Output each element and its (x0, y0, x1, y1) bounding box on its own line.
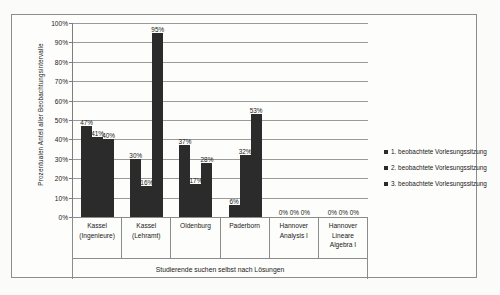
legend-item[interactable]: 2. beobachtete Vorlesungssitzung (384, 164, 484, 172)
bar-value-label: 53% (250, 107, 263, 114)
category-label-line: Hannover (270, 221, 318, 231)
bar[interactable]: 30% (130, 159, 141, 217)
category-label: HannoverAnalysis I (270, 218, 319, 258)
x-axis-title-row: Studierende suchen selbst nach Lösungen (72, 259, 368, 279)
bar[interactable]: 47% (81, 126, 92, 217)
bar-slot: 0% (278, 23, 289, 217)
y-axis-tick-label: 80% (55, 58, 68, 65)
bar-slot: 0% (289, 23, 300, 217)
bar-value-label: 0% (301, 209, 310, 216)
bar[interactable]: 40% (103, 139, 114, 217)
bar[interactable]: 6% (229, 205, 240, 217)
bar-slot: 53% (251, 23, 262, 217)
category-label-line: (Lehramt) (122, 231, 170, 241)
bar-value-label: 28% (201, 156, 214, 163)
plot-area: 47%41%40%30%16%95%37%17%28%6%32%53%0%0%0… (72, 23, 368, 217)
category-label-line: Hannover (319, 221, 367, 231)
category-label-line: Kassel (122, 221, 170, 231)
y-axis-tick-label: 100% (51, 20, 68, 27)
bar[interactable]: 41% (92, 137, 103, 217)
y-axis-tick-label: 20% (55, 175, 68, 182)
category-label-line: Kassel (73, 221, 121, 231)
y-axis-tick-label: 30% (55, 155, 68, 162)
bar-slot: 32% (240, 23, 251, 217)
bar-value-label: 32% (239, 148, 252, 155)
bar-slot: 0% (300, 23, 311, 217)
category-label: Oldenburg (171, 218, 220, 258)
bar-slot: 37% (179, 23, 190, 217)
chart-legend: 1. beobachtete Vorlesungssitzung2. beoba… (384, 148, 484, 196)
legend-label: 1. beobachtete Vorlesungssitzung (391, 148, 487, 156)
bar-value-label: 16% (140, 179, 153, 186)
y-axis-tick-label: 40% (55, 136, 68, 143)
bar-slot: 95% (152, 23, 163, 217)
bar[interactable]: 95% (152, 33, 163, 217)
bar-group: 30%16%95% (122, 23, 171, 217)
category-label-line: Algebra I (319, 240, 367, 250)
legend-item[interactable]: 3. beobachtete Vorlesungssitzung (384, 180, 484, 188)
legend-swatch-icon (384, 166, 388, 170)
legend-swatch-icon (384, 150, 388, 154)
bar-slot: 16% (141, 23, 152, 217)
bar-slot: 0% (338, 23, 349, 217)
bar-group: 6%32%53% (221, 23, 270, 217)
x-axis-title: Studierende suchen selbst nach Lösungen (156, 266, 284, 273)
bar-slot: 0% (349, 23, 360, 217)
bar-value-label: 47% (80, 119, 93, 126)
y-axis-ticks: 0%10%20%30%40%50%60%70%80%90%100% (42, 23, 72, 217)
legend-label: 3. beobachtete Vorlesungssitzung (391, 180, 487, 188)
category-axis: Kassel(Ingenieure)Kassel(Lehramt)Oldenbu… (72, 217, 368, 259)
bar-value-label: 30% (129, 152, 142, 159)
legend-label: 2. beobachtete Vorlesungssitzung (391, 164, 487, 172)
bar-value-label: 0% (350, 209, 359, 216)
category-label: Paderborn (221, 218, 270, 258)
bar-value-label: 17% (190, 177, 203, 184)
bar[interactable]: 16% (141, 186, 152, 217)
category-label: Kassel(Ingenieure) (72, 218, 122, 258)
category-label-line: Lineare (319, 231, 367, 241)
bar-value-label: 37% (179, 138, 192, 145)
bar-value-label: 0% (328, 209, 337, 216)
y-axis-tick-label: 70% (55, 78, 68, 85)
category-label-line: Oldenburg (171, 221, 219, 231)
y-axis-tick-label: 50% (55, 117, 68, 124)
category-label: Kassel(Lehramt) (122, 218, 171, 258)
bar-slot: 0% (327, 23, 338, 217)
bar-value-label: 0% (290, 209, 299, 216)
bar[interactable]: 28% (201, 163, 212, 217)
bar[interactable]: 53% (251, 114, 262, 217)
legend-swatch-icon (384, 182, 388, 186)
bar[interactable]: 32% (240, 155, 251, 217)
bar-slot: 41% (92, 23, 103, 217)
bar-value-label: 40% (102, 132, 115, 139)
category-label-line: Paderborn (221, 221, 269, 231)
category-label: HannoverLineareAlgebra I (319, 218, 368, 258)
bar-group: 47%41%40% (73, 23, 122, 217)
bar-value-label: 0% (279, 209, 288, 216)
bar-slot: 30% (130, 23, 141, 217)
bar-groups: 47%41%40%30%16%95%37%17%28%6%32%53%0%0%0… (73, 23, 368, 217)
bar-slot: 47% (81, 23, 92, 217)
bar-value-label: 0% (339, 209, 348, 216)
bar-group: 0%0%0% (270, 23, 319, 217)
bar[interactable]: 17% (190, 184, 201, 217)
bar-group: 0%0%0% (319, 23, 368, 217)
category-label-line: (Ingenieure) (73, 231, 121, 241)
bar-value-label: 95% (151, 26, 164, 33)
y-axis-tick-label: 60% (55, 97, 68, 104)
bar-group: 37%17%28% (171, 23, 220, 217)
bar-slot: 28% (201, 23, 212, 217)
category-label-line: Analysis I (270, 231, 318, 241)
chart-frame: Prozentualen Anteil aller Beobachtungsin… (11, 14, 477, 278)
y-axis-tick-label: 0% (58, 214, 68, 221)
bar-value-label: 6% (229, 198, 238, 205)
legend-item[interactable]: 1. beobachtete Vorlesungssitzung (384, 148, 484, 156)
bar-slot: 6% (229, 23, 240, 217)
y-axis-tick-label: 90% (55, 39, 68, 46)
y-axis-tick-label: 10% (55, 194, 68, 201)
bar-slot: 40% (103, 23, 114, 217)
bar-slot: 17% (190, 23, 201, 217)
